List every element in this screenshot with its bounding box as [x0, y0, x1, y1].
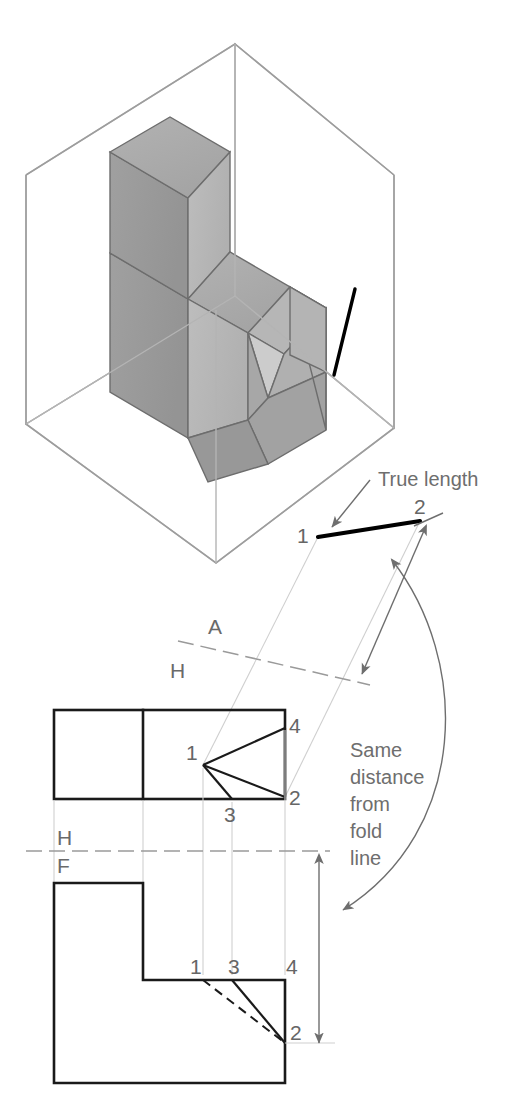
fold-label-h-lower: H: [57, 826, 72, 849]
same-distance-line-3: from: [350, 793, 390, 815]
top-view-group: [54, 710, 285, 799]
true-length-label: True length: [378, 468, 478, 490]
front-view-point-label-4: 4: [286, 955, 298, 978]
same-distance-line-1: Same: [350, 739, 402, 761]
front-view-point-label-2: 2: [290, 1021, 302, 1044]
front-view-group: [54, 883, 335, 1083]
fold-label-h-upper: H: [170, 659, 185, 682]
fold-label-a: A: [208, 615, 222, 638]
true-length-line-1-2: [318, 521, 420, 537]
top-view-outline: [54, 710, 285, 799]
true-length-leader: [332, 480, 370, 527]
projector-aux-point-1: [203, 537, 318, 765]
front-view-outline: [54, 883, 285, 1083]
top-view-point-label-2: 2: [289, 786, 301, 809]
fold-line-a-h: [178, 641, 370, 685]
figure-canvas: True length 1 2 A H 1 4 2 3 H F 1 3 4 2 …: [0, 0, 511, 1112]
fold-label-f: F: [57, 854, 70, 877]
top-view-point-label-3: 3: [224, 803, 236, 826]
same-distance-line-4: fold: [350, 820, 382, 842]
front-view-edge-3-2: [232, 980, 285, 1043]
aux-point-label-1: 1: [297, 524, 309, 547]
top-view-point-label-4: 4: [289, 714, 301, 737]
vertical-projectors: [54, 730, 285, 975]
same-distance-line-5: line: [350, 847, 381, 869]
fold-line-a-h-group: [178, 641, 370, 685]
front-view-point-label-3: 3: [228, 955, 240, 978]
top-view-point-label-1: 1: [186, 741, 198, 764]
front-view-point-label-1: 1: [190, 955, 202, 978]
top-view-edge-1-4: [203, 728, 285, 765]
aux-point-label-2: 2: [414, 495, 426, 518]
pictorial-solid: [110, 117, 326, 482]
front-view-hidden-edge-1-2: [203, 980, 285, 1043]
same-distance-line-2: distance: [350, 766, 425, 788]
technical-drawing-figure: True length 1 2 A H 1 4 2 3 H F 1 3 4 2 …: [0, 0, 511, 1112]
pictorial-true-length-edge: [334, 289, 355, 375]
aux-distance-dimension: [362, 526, 426, 674]
